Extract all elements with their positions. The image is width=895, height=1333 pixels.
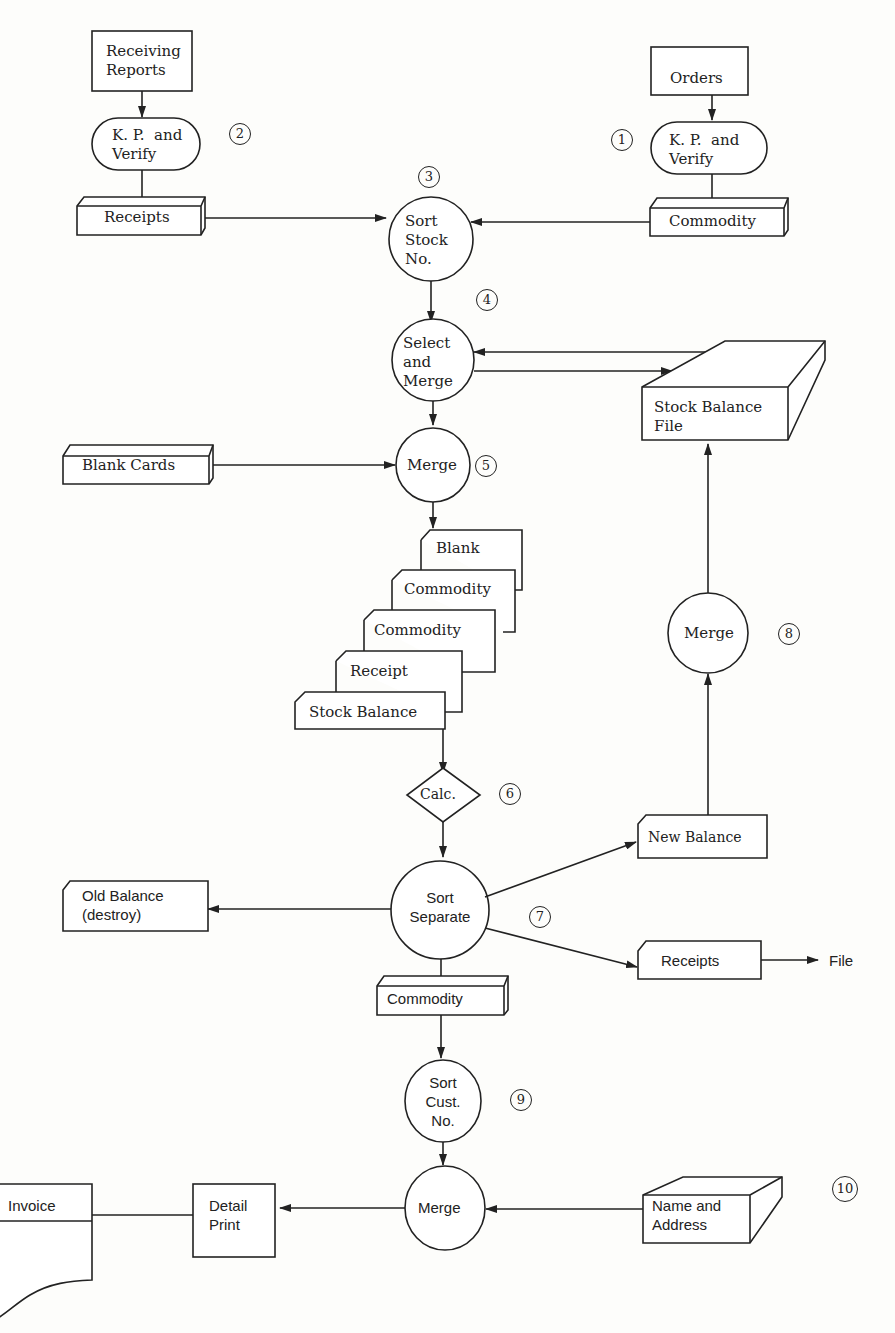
file-label: File xyxy=(829,951,853,970)
step-7-marker: 7 xyxy=(529,906,551,928)
step-8-marker: 8 xyxy=(778,623,800,645)
stock-balance-file-label: Stock Balance File xyxy=(654,398,762,436)
step-5-marker: 5 xyxy=(475,455,497,477)
flowchart-canvas: Receiving Reports K. P. and Verify Recei… xyxy=(0,0,895,1333)
deck-receipt-label: Receipt xyxy=(350,662,408,681)
step-3-marker: 3 xyxy=(418,166,440,188)
kp-verify-left-label: K. P. and Verify xyxy=(112,126,182,164)
receipts-top-label: Receipts xyxy=(104,208,170,227)
step-4-marker: 4 xyxy=(476,289,498,311)
kp-verify-right-label: K. P. and Verify xyxy=(669,131,739,169)
merge-8-label: Merge xyxy=(684,624,734,643)
sort-cust-no-label: Sort Cust. No. xyxy=(413,1073,473,1130)
step-1-marker: 1 xyxy=(611,129,633,151)
deck-blank-label: Blank xyxy=(436,539,480,558)
merge-5-label: Merge xyxy=(407,456,457,475)
orders-label: Orders xyxy=(670,69,723,88)
old-balance-label: Old Balance (destroy) xyxy=(82,886,164,924)
step-10-marker: 10 xyxy=(832,1176,858,1202)
blank-cards-label: Blank Cards xyxy=(82,456,175,475)
step-6-marker: 6 xyxy=(499,783,521,805)
commodity-bottom-label: Commodity xyxy=(387,989,463,1008)
new-balance-label: New Balance xyxy=(648,828,742,847)
invoice-label: Invoice xyxy=(8,1196,56,1215)
sort-stock-no-label: Sort Stock No. xyxy=(405,212,448,269)
receiving-reports-label: Receiving Reports xyxy=(106,42,181,80)
commodity-top-label: Commodity xyxy=(669,212,756,231)
calc-label: Calc. xyxy=(420,785,456,804)
deck-commodity-2-label: Commodity xyxy=(374,621,461,640)
merge-final-label: Merge xyxy=(418,1198,461,1217)
flowchart-shapes xyxy=(0,0,895,1333)
step-2-marker: 2 xyxy=(229,123,251,145)
select-and-merge-label: Select and Merge xyxy=(403,334,453,391)
step-9-marker: 9 xyxy=(510,1089,532,1111)
name-and-address-label: Name and Address xyxy=(652,1196,721,1234)
deck-commodity-1-label: Commodity xyxy=(404,580,491,599)
deck-stock-balance-label: Stock Balance xyxy=(309,703,417,722)
sort-separate-label: Sort Separate xyxy=(400,888,480,926)
detail-print-label: Detail Print xyxy=(209,1196,247,1234)
receipts-bottom-label: Receipts xyxy=(661,951,719,970)
